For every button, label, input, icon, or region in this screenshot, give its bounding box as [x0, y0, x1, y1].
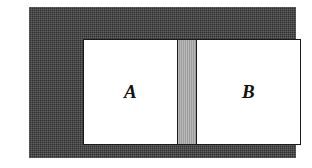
partition: [177, 40, 197, 144]
chamber-b-label: B: [242, 82, 255, 101]
chamber-b: B: [197, 40, 300, 144]
figure-root: A B: [0, 0, 312, 168]
container-interior: A B: [83, 39, 301, 145]
container-wall: A B: [29, 7, 296, 158]
chamber-a-label: A: [124, 82, 137, 101]
chamber-a: A: [84, 40, 177, 144]
